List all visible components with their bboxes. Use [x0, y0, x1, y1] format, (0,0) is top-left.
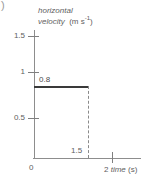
velocity-time-graph-figure: ) horizontal velocity (m s-1) 1.5 1 0.5 … [0, 0, 141, 179]
x-axis-guide-label-1-5: 1.5 [71, 146, 82, 155]
y-axis-unit-close: ) [90, 17, 93, 26]
question-part-paren: ) [1, 0, 5, 11]
x-axis-caption: 2 time (s) [104, 165, 137, 174]
y-axis-label-1: 1 [4, 67, 25, 76]
velocity-drop-dashed-line [88, 86, 89, 158]
x-axis-tick-2 [112, 152, 113, 163]
y-axis-unit: (m s-1) [67, 17, 93, 26]
plateau-value-label: 0.8 [39, 75, 50, 84]
y-axis-label-0-5: 0.5 [4, 113, 25, 122]
y-axis-title: horizontal velocity (m s-1) [38, 6, 138, 27]
y-axis-tick-1-5 [28, 36, 39, 37]
x-axis-label-2: 2 [104, 165, 108, 174]
x-axis-unit: (s) [128, 165, 137, 174]
x-axis-line [33, 158, 141, 159]
origin-label: 0 [29, 163, 33, 172]
y-axis-line [34, 30, 35, 159]
x-axis-title: time [111, 165, 126, 174]
y-axis-unit-open: (m s [69, 17, 85, 26]
y-axis-tick-1 [28, 72, 39, 73]
y-axis-label-1-5: 1.5 [4, 31, 25, 40]
y-axis-title-line1: horizontal [38, 6, 73, 15]
y-axis-title-line2: velocity [38, 17, 65, 26]
y-axis-tick-0-5 [28, 118, 39, 119]
velocity-plateau-line [34, 86, 89, 88]
